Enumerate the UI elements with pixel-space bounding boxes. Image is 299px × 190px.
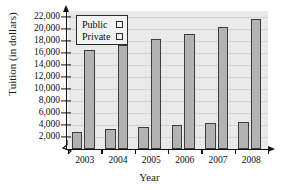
bar-private-2003 [84,50,95,149]
chart-legend: Public Private [76,15,128,45]
bar-public-2004 [105,129,116,149]
y-tick-label: 18,000 [14,36,60,46]
bar-private-2004 [118,45,129,149]
legend-label-private: Private [82,31,110,42]
tuition-bar-chart: Tuition (in dollars) 2,0004,0006,0008,00… [0,0,299,190]
y-tick-mark [61,16,71,17]
y-tick-label: 8,000 [14,96,60,106]
y-tick-label: 16,000 [14,48,60,58]
y-tick-label: 20,000 [14,24,60,34]
legend-label-public: Public [82,19,108,30]
y-tick-label: 12,000 [14,72,60,82]
y-tick-mark [61,124,71,125]
gridline [68,65,268,66]
gridline [68,77,268,78]
y-tick-mark [61,76,71,77]
gridline [68,113,268,114]
y-tick-mark [61,52,71,53]
x-tick-mark [268,149,269,154]
y-tick-mark [61,88,71,89]
gridline [68,89,268,90]
bar-private-2007 [218,27,229,149]
x-tick-mark [135,149,136,154]
legend-item-public: Public [82,18,123,30]
y-tick-label: 14,000 [14,60,60,70]
y-tick-label: 2,000 [14,132,60,142]
y-tick-mark [61,64,71,65]
y-tick-mark [61,136,71,137]
bar-public-2008 [238,122,249,149]
x-tick-mark [68,149,69,154]
bar-private-2006 [184,34,195,149]
y-tick-label: 6,000 [14,108,60,118]
y-tick-mark [61,112,71,113]
x-axis-title: Year [0,171,299,183]
x-tick-mark [168,149,169,154]
x-tick-mark [201,149,202,154]
legend-swatch-private [116,33,123,40]
axis-break-zigzag-icon [60,140,80,154]
bar-public-2006 [172,125,183,149]
y-tick-label: 22,000 [14,12,60,22]
y-tick-label: 4,000 [14,120,60,130]
y-tick-mark [61,28,71,29]
bar-private-2008 [251,19,262,149]
bar-public-2005 [138,127,149,149]
y-tick-mark [61,100,71,101]
x-tick-mark [235,149,236,154]
legend-swatch-public [116,21,123,28]
gridline [68,53,268,54]
bar-private-2005 [151,39,162,149]
y-tick-label: 10,000 [14,84,60,94]
y-axis-arrow-icon [63,5,69,12]
x-tick-mark [101,149,102,154]
y-axis-line [66,11,67,150]
y-axis-tick-labels: 2,0004,0006,0008,00010,00012,00014,00016… [14,0,60,190]
x-tick-label-2008: 2008 [231,155,271,165]
y-tick-mark [61,40,71,41]
gridline [68,101,268,102]
bar-public-2007 [205,123,216,149]
legend-item-private: Private [82,30,123,42]
